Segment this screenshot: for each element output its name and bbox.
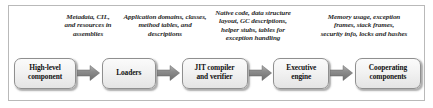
pipeline-flow: High-level component Loaders	[14, 56, 421, 90]
caption-assemblies: Metadata, CIL, and resources in assembli…	[52, 13, 124, 38]
node-high-level-component: High-level component	[14, 58, 76, 89]
caption-engine-output: Memory usage, exception frames, stack fr…	[302, 13, 426, 38]
arrow-jit-to-engine	[249, 64, 273, 82]
node-label: Cooperating components	[366, 64, 410, 81]
diagram-figure: Metadata, CIL, and resources in assembli…	[0, 0, 433, 108]
caption-loaders-output: Application domains, classes, method tab…	[120, 13, 210, 38]
node-label: High-level component	[25, 64, 65, 81]
node-label: Executive engine	[283, 64, 319, 81]
node-label: JIT compiler and verifier	[192, 64, 238, 81]
arrow-engine-to-cooperating	[330, 64, 354, 82]
node-loaders: Loaders	[102, 58, 156, 89]
node-cooperating-components: Cooperating components	[355, 58, 421, 89]
node-executive-engine: Executive engine	[273, 58, 329, 89]
node-jit-compiler: JIT compiler and verifier	[182, 58, 248, 89]
node-label: Loaders	[113, 69, 144, 78]
caption-jit-output: Native code, data structure layout, GC d…	[202, 9, 304, 43]
arrow-high-level-to-loaders	[77, 64, 101, 82]
arrow-loaders-to-jit	[157, 64, 181, 82]
